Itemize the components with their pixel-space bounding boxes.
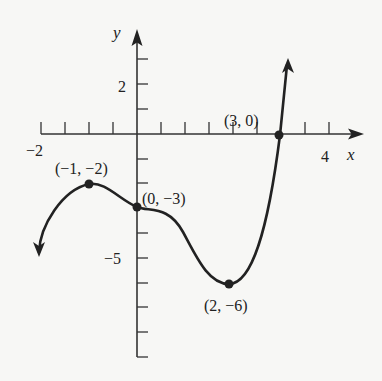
x-axis [41, 122, 364, 140]
point-marker-3-0 [275, 131, 284, 140]
x-tick-label-4: 4 [321, 148, 329, 165]
point-marker-0-neg3 [133, 203, 142, 212]
point-marker-neg1-neg2 [85, 180, 94, 189]
function-graph: y x −2 4 2 −5 (−1, −2) (0, −3) (2, −6) (… [0, 0, 382, 381]
x-axis-ticks [41, 122, 329, 134]
point-marker-2-neg6 [225, 280, 234, 289]
graph-canvas: y x −2 4 2 −5 (−1, −2) (0, −3) (2, −6) (… [0, 0, 382, 381]
y-tick-label-2: 2 [118, 78, 126, 95]
curve-right-arrow-icon [282, 58, 294, 73]
point-label-0-neg3: (0, −3) [142, 190, 186, 208]
point-label-neg1-neg2: (−1, −2) [55, 160, 108, 178]
point-label-3-0: (3, 0) [224, 112, 259, 130]
y-axis-label: y [111, 23, 121, 42]
point-label-2-neg6: (2, −6) [204, 297, 248, 315]
x-tick-label-neg2: −2 [26, 142, 43, 159]
x-axis-label: x [346, 145, 355, 164]
y-tick-label-neg5: −5 [104, 250, 121, 267]
